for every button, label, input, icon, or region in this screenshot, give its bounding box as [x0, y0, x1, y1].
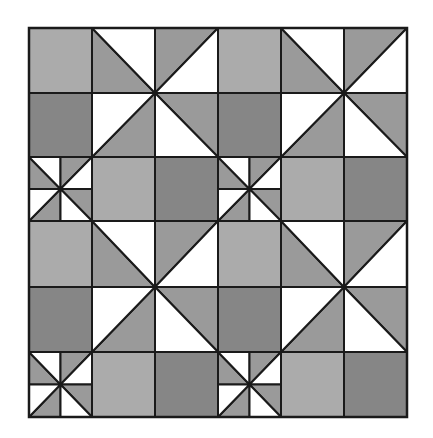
cell-r4-c0-dark-square — [29, 287, 92, 352]
cell-r2-c5-dark-square — [344, 157, 407, 221]
cell-r0-c0-light-square — [29, 28, 92, 93]
cell-r1-c3-dark-square — [218, 93, 281, 157]
cell-r2-c4-light-square — [281, 157, 344, 221]
cell-r3-c3-light-square — [218, 221, 281, 287]
cell-r5-c4-light-square — [281, 352, 344, 417]
cell-r2-c2-dark-square — [155, 157, 218, 221]
cell-r1-c0-dark-square — [29, 93, 92, 157]
cell-r3-c0-light-square — [29, 221, 92, 287]
cell-r5-c5-dark-square — [344, 352, 407, 417]
cell-r0-c3-light-square — [218, 28, 281, 93]
cell-r4-c3-dark-square — [218, 287, 281, 352]
cell-r5-c1-light-square — [92, 352, 155, 417]
cell-r5-c2-dark-square — [155, 352, 218, 417]
quilt-diagram — [0, 0, 433, 438]
cell-r2-c1-light-square — [92, 157, 155, 221]
